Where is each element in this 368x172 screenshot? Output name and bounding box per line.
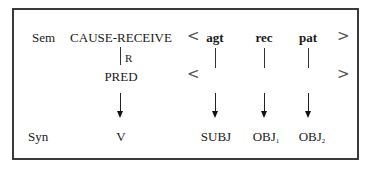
arg-pat: pat	[299, 31, 317, 45]
syn-row-label: Syn	[28, 130, 48, 144]
arrow-down-icon	[264, 93, 265, 113]
close-angle-bracket-pred: >	[337, 67, 350, 81]
relation-line	[120, 47, 121, 65]
arg-agt: agt	[206, 31, 223, 45]
sem-row-label: Sem	[32, 31, 55, 45]
arrow-down-icon	[120, 93, 121, 113]
syn-obj1: OBJ1	[253, 130, 280, 148]
arg-link-line	[215, 48, 216, 68]
syn-verb: V	[116, 130, 125, 144]
syn-obj2: OBJ2	[299, 130, 326, 148]
arg-link-line	[308, 48, 309, 68]
pred-label: PRED	[104, 70, 137, 84]
open-angle-bracket: <	[187, 29, 200, 43]
sem-predicate: CAUSE-RECEIVE	[70, 31, 172, 45]
arrow-down-icon	[215, 93, 216, 113]
relation-label: R	[125, 51, 132, 65]
open-angle-bracket-pred: <	[187, 67, 200, 81]
arg-rec: rec	[255, 31, 272, 45]
arg-link-line	[264, 48, 265, 68]
arrow-down-icon	[308, 93, 309, 113]
close-angle-bracket: >	[337, 29, 350, 43]
syn-subj: SUBJ	[201, 130, 231, 144]
